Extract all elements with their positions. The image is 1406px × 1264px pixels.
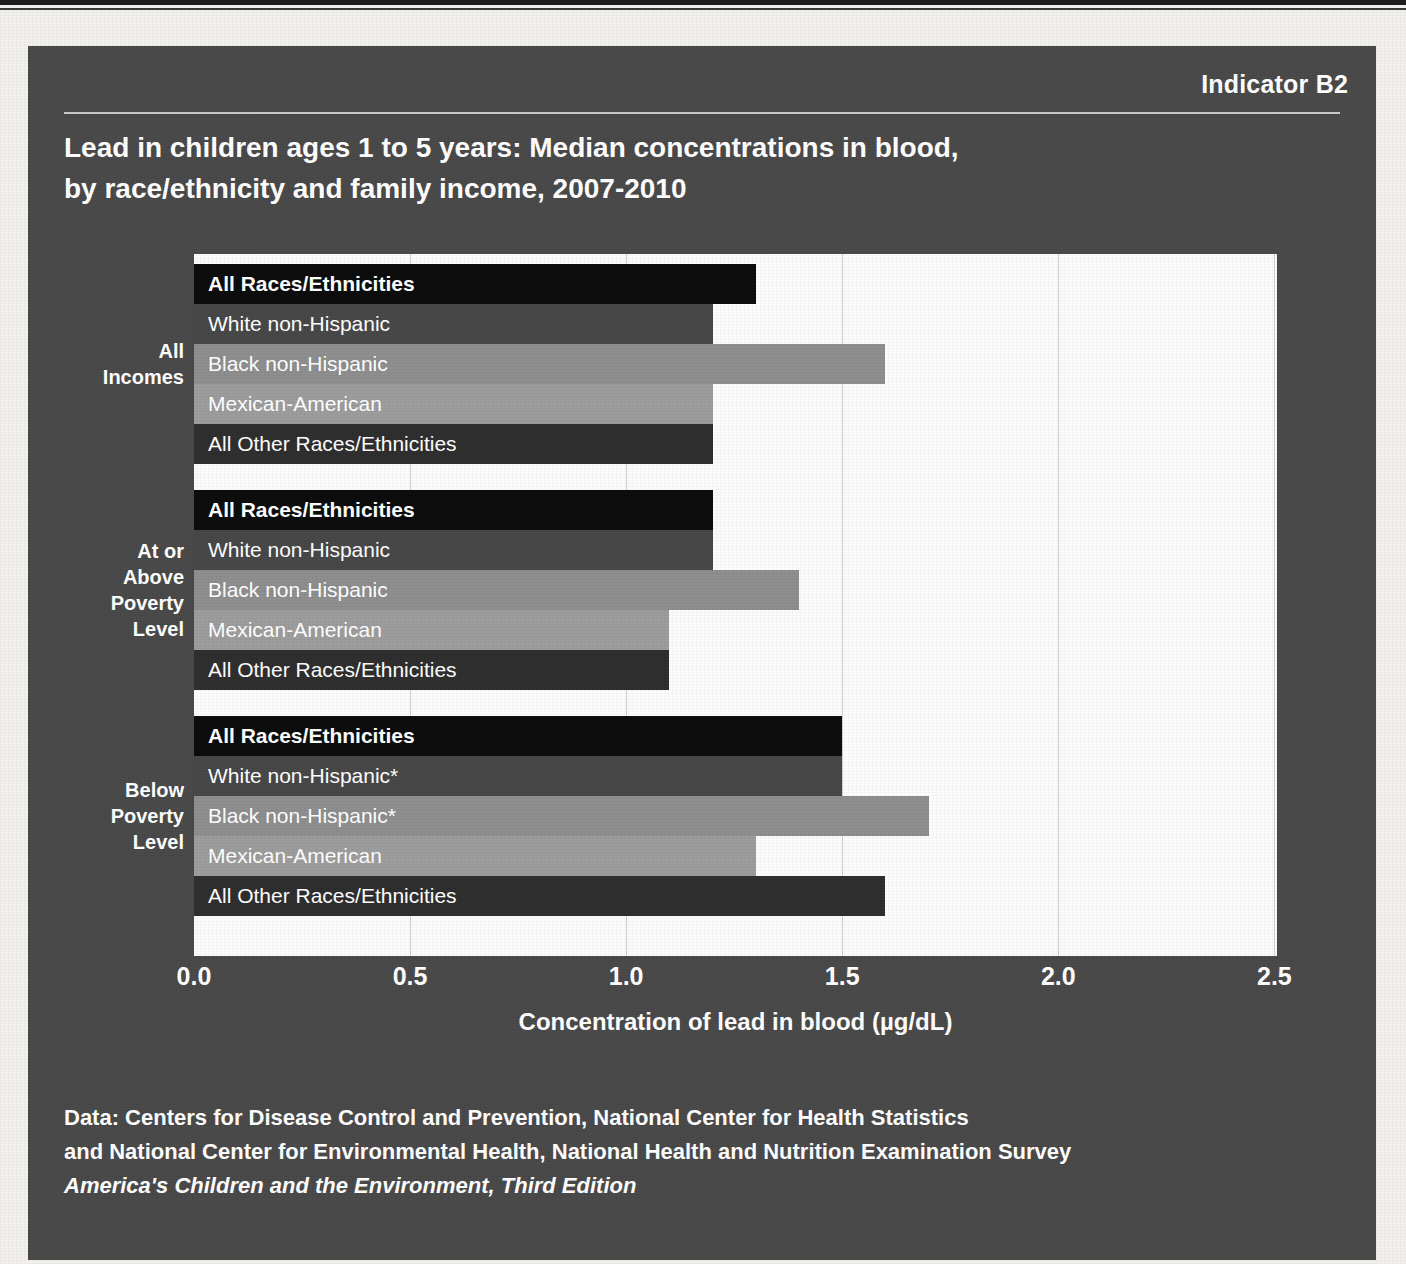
x-tick-1.0: 1.0 <box>609 962 644 991</box>
bar-row[interactable]: All Other Races/Ethnicities <box>194 650 1277 690</box>
bar[interactable] <box>194 530 713 570</box>
group-label-line: All <box>44 338 184 364</box>
bar-row[interactable]: White non-Hispanic <box>194 530 1277 570</box>
bar[interactable] <box>194 876 885 916</box>
bar-row[interactable]: Black non-Hispanic* <box>194 796 1277 836</box>
page-top-rule-secondary <box>0 8 1406 10</box>
group-label-line: Poverty <box>44 590 184 616</box>
group-label-3: BelowPovertyLevel <box>44 777 184 855</box>
x-tick-2.5: 2.5 <box>1257 962 1292 991</box>
bar[interactable] <box>194 304 713 344</box>
group-label-line: Level <box>44 616 184 642</box>
bar-row[interactable]: Black non-Hispanic <box>194 344 1277 384</box>
x-tick-0.5: 0.5 <box>393 962 428 991</box>
footer-source-line-2: and National Center for Environmental He… <box>64 1135 1344 1169</box>
group-label-line: Above <box>44 564 184 590</box>
bar-row[interactable]: Black non-Hispanic <box>194 570 1277 610</box>
bar[interactable] <box>194 424 713 464</box>
x-tick-0.0: 0.0 <box>177 962 212 991</box>
page-top-rule <box>0 0 1406 5</box>
figure-footer: Data: Centers for Disease Control and Pr… <box>64 1101 1344 1203</box>
bar[interactable] <box>194 610 669 650</box>
plot-area: All Races/EthnicitiesWhite non-HispanicB… <box>194 254 1277 956</box>
group-label-1: AllIncomes <box>44 338 184 390</box>
bar[interactable] <box>194 344 885 384</box>
bar-row[interactable]: White non-Hispanic* <box>194 756 1277 796</box>
chart-title-line-2: by race/ethnicity and family income, 200… <box>64 169 1304 210</box>
x-tick-1.5: 1.5 <box>825 962 860 991</box>
bar-row[interactable]: Mexican-American <box>194 610 1277 650</box>
group-label-line: At or <box>44 538 184 564</box>
header-divider <box>64 112 1340 114</box>
bar-row[interactable]: All Races/Ethnicities <box>194 490 1277 530</box>
bar-row[interactable]: All Races/Ethnicities <box>194 264 1277 304</box>
bar[interactable] <box>194 836 756 876</box>
group-label-2: At orAbovePovertyLevel <box>44 538 184 642</box>
bar-row[interactable]: All Other Races/Ethnicities <box>194 424 1277 464</box>
figure-panel: Indicator B2 Lead in children ages 1 to … <box>28 46 1376 1260</box>
bar[interactable] <box>194 796 929 836</box>
bar-row[interactable]: All Races/Ethnicities <box>194 716 1277 756</box>
footer-edition-line: America's Children and the Environment, … <box>64 1169 1344 1203</box>
group-label-line: Incomes <box>44 364 184 390</box>
group-label-line: Level <box>44 829 184 855</box>
chart-title-line-1: Lead in children ages 1 to 5 years: Medi… <box>64 128 1304 169</box>
bar-row[interactable]: White non-Hispanic <box>194 304 1277 344</box>
footer-source-line-1: Data: Centers for Disease Control and Pr… <box>64 1101 1344 1135</box>
bar-row[interactable]: Mexican-American <box>194 836 1277 876</box>
indicator-label: Indicator B2 <box>1201 70 1348 99</box>
bar[interactable] <box>194 650 669 690</box>
bar-row[interactable]: All Other Races/Ethnicities <box>194 876 1277 916</box>
chart-title: Lead in children ages 1 to 5 years: Medi… <box>64 128 1304 209</box>
bar[interactable] <box>194 384 713 424</box>
bar[interactable] <box>194 756 842 796</box>
bar-row[interactable]: Mexican-American <box>194 384 1277 424</box>
x-tick-2.0: 2.0 <box>1041 962 1076 991</box>
x-axis-title: Concentration of lead in blood (µg/dL) <box>194 1008 1277 1036</box>
group-label-line: Poverty <box>44 803 184 829</box>
bar[interactable] <box>194 490 713 530</box>
group-label-line: Below <box>44 777 184 803</box>
bar[interactable] <box>194 570 799 610</box>
bar[interactable] <box>194 716 842 756</box>
bar[interactable] <box>194 264 756 304</box>
